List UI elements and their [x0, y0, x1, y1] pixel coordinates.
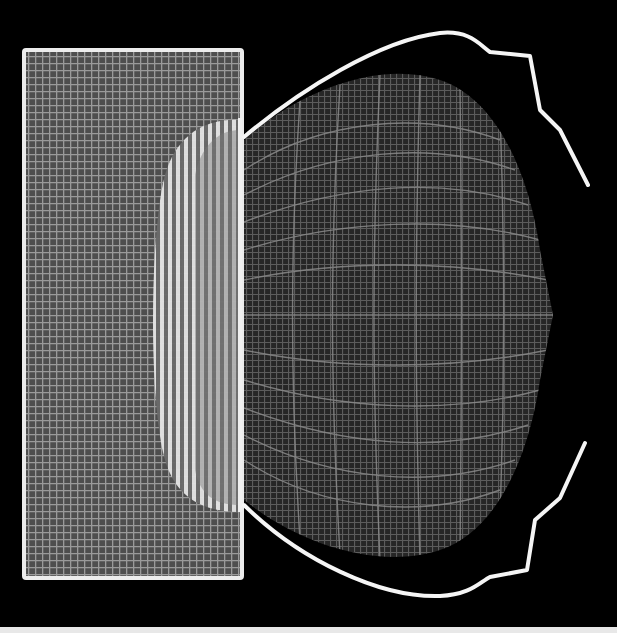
bright-deformation-zone — [153, 118, 240, 512]
bottom-border — [0, 627, 617, 633]
deformed-mesh — [244, 74, 553, 560]
simulation-figure — [0, 0, 617, 633]
